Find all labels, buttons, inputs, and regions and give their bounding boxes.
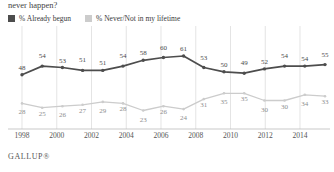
data-point — [121, 64, 124, 67]
data-point — [41, 64, 44, 67]
data-point — [263, 99, 266, 102]
legend-swatch-already-begun — [8, 15, 15, 22]
legend-item-never: % Never/Not in my lifetime — [85, 14, 180, 23]
data-label: 52 — [261, 58, 269, 66]
data-label: 35 — [221, 98, 229, 106]
data-label: 27 — [79, 107, 87, 115]
data-point — [81, 69, 84, 72]
data-point — [304, 94, 307, 97]
data-label: 58 — [140, 49, 148, 57]
x-tick-label: 2008 — [188, 131, 203, 141]
data-point — [323, 63, 326, 66]
data-label: 25 — [39, 110, 47, 118]
data-label: 23 — [140, 116, 148, 124]
legend-swatch-never — [85, 15, 92, 22]
data-label: 26 — [160, 108, 168, 116]
data-label: 35 — [241, 95, 249, 103]
legend-label-already-begun: % Already begun — [19, 14, 71, 23]
data-point — [142, 109, 145, 112]
data-label: 31 — [200, 101, 208, 109]
data-point — [202, 66, 205, 69]
legend-item-already-begun: % Already begun — [8, 14, 71, 23]
series-line — [22, 56, 325, 75]
data-point — [162, 56, 165, 59]
data-label: 53 — [59, 57, 67, 65]
line-chart-plot: 2825262729282326243135353030343348545351… — [0, 26, 334, 130]
chart-svg: 2825262729282326243135353030343348545351… — [0, 26, 334, 130]
data-point — [283, 99, 286, 102]
data-label: 26 — [59, 111, 67, 119]
data-label: 54 — [301, 55, 309, 63]
data-label: 29 — [99, 107, 107, 115]
data-label: 30 — [281, 103, 289, 111]
data-point — [21, 102, 24, 105]
x-tick-label: 2002 — [84, 131, 99, 141]
data-label: 50 — [221, 61, 229, 69]
data-point — [122, 102, 125, 105]
data-point — [223, 92, 226, 95]
data-point — [81, 104, 84, 107]
data-point — [102, 101, 105, 104]
data-label: 28 — [19, 108, 27, 116]
data-label: 48 — [19, 64, 27, 72]
data-point — [162, 105, 165, 108]
data-label: 61 — [180, 45, 188, 53]
x-tick-label: 1998 — [15, 131, 30, 141]
data-point — [263, 67, 266, 70]
data-point — [142, 59, 145, 62]
series-line — [22, 93, 325, 110]
data-label: 49 — [241, 59, 249, 67]
data-label: 28 — [120, 105, 128, 113]
data-point — [182, 54, 185, 57]
data-label: 30 — [261, 106, 269, 114]
data-label: 55 — [322, 51, 330, 59]
x-tick-label: 2010 — [223, 131, 238, 141]
data-point — [61, 66, 64, 69]
x-tick-label: 2012 — [258, 131, 273, 141]
data-point — [243, 72, 246, 75]
data-point — [101, 69, 104, 72]
data-label: 51 — [99, 59, 107, 67]
data-label: 53 — [200, 54, 208, 62]
page-title: never happen? — [8, 0, 57, 11]
data-point — [243, 92, 246, 95]
x-tick-label: 2004 — [119, 131, 134, 141]
data-label: 51 — [79, 56, 87, 64]
data-point — [283, 64, 286, 67]
x-tick-label: 2014 — [293, 131, 308, 141]
x-axis-tick-labels: 199820002002200420062008201020122014 — [0, 131, 334, 145]
data-point — [182, 108, 185, 111]
gallup-logo: GALLUP® — [8, 152, 50, 161]
data-label: 24 — [180, 114, 188, 122]
data-point — [20, 73, 23, 76]
chart-legend: % Already begun % Never/Not in my lifeti… — [8, 14, 194, 23]
data-point — [324, 95, 327, 98]
data-point — [203, 98, 206, 101]
data-point — [303, 64, 306, 67]
data-label: 34 — [301, 100, 309, 108]
data-label: 54 — [39, 52, 47, 60]
data-label: 33 — [322, 98, 330, 106]
data-point — [41, 106, 44, 109]
data-label: 54 — [120, 52, 128, 60]
legend-label-never: % Never/Not in my lifetime — [96, 14, 180, 23]
x-tick-label: 2006 — [154, 131, 169, 141]
data-point — [61, 105, 64, 108]
data-label: 54 — [281, 52, 289, 60]
data-label: 60 — [160, 44, 168, 52]
data-point — [222, 70, 225, 73]
x-tick-label: 2000 — [49, 131, 64, 141]
